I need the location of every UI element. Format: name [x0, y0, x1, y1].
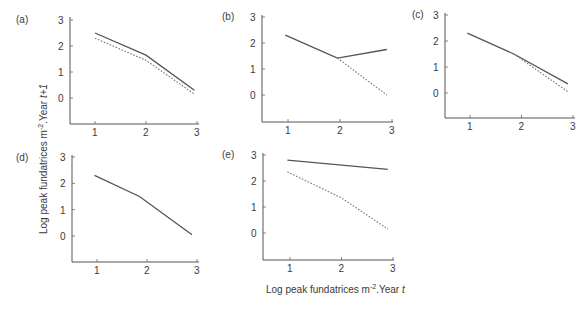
y-tick-label: 0: [60, 231, 66, 242]
y-axis-title-suffix: .Year: [38, 98, 49, 124]
panel-c: 0123123(c): [412, 9, 576, 132]
x-tick-label: 2: [144, 265, 150, 276]
x-tick-label: 1: [467, 121, 473, 132]
panel-label: (e): [222, 149, 234, 160]
y-tick-label: 1: [58, 67, 64, 78]
dotted-series-line: [337, 58, 386, 95]
y-tick-label: 2: [250, 38, 256, 49]
panels: 0123123(a)0123123(b)0123123(c)0123123(d)…: [16, 9, 576, 276]
x-tick-label: 1: [287, 263, 293, 274]
y-tick-label: 1: [251, 202, 257, 213]
x-tick-label: 1: [92, 127, 98, 138]
y-tick-label: 3: [58, 15, 64, 26]
y-tick-label: 3: [251, 150, 257, 161]
solid-series-line: [95, 175, 193, 234]
y-tick-label: 2: [251, 176, 257, 187]
x-tick-label: 3: [194, 127, 200, 138]
dotted-series-line: [287, 172, 388, 229]
dotted-series-line: [95, 38, 194, 94]
x-tick-label: 2: [143, 127, 149, 138]
y-tick-label: 1: [433, 62, 439, 73]
y-axis-title-italic: t+1: [38, 84, 49, 98]
y-axis-title-main: Log peak fundatrices m: [38, 130, 49, 234]
y-tick-label: 0: [251, 228, 257, 239]
solid-series-line: [95, 33, 194, 90]
panel-label: (d): [16, 152, 28, 163]
solid-series-line: [287, 160, 388, 169]
x-tick-label: 3: [389, 125, 395, 136]
axes-frame: [70, 17, 199, 124]
y-tick-label: 0: [58, 93, 64, 104]
x-tick-label: 3: [390, 263, 396, 274]
x-axis-title-suffix: .Year: [376, 284, 402, 295]
y-tick-label: 3: [60, 152, 66, 163]
x-tick-label: 2: [519, 121, 525, 132]
x-tick-label: 2: [337, 125, 343, 136]
y-tick-label: 3: [250, 12, 256, 23]
x-tick-label: 2: [339, 263, 345, 274]
y-axis-title: Log peak fundatrices m-2.Year t+1: [37, 84, 49, 234]
y-tick-label: 2: [58, 41, 64, 52]
panel-label: (c): [412, 9, 424, 20]
solid-series-line: [285, 35, 386, 58]
solid-series-line: [467, 33, 568, 84]
x-axis-title-main: Log peak fundatrices m: [266, 284, 370, 295]
y-tick-label: 1: [60, 205, 66, 216]
axes-frame: [262, 15, 393, 122]
panel-e: 0123123(e): [222, 149, 396, 274]
panel-label: (b): [222, 11, 234, 22]
chart-canvas: 0123123(a)0123123(b)0123123(c)0123123(d)…: [0, 0, 585, 309]
y-tick-label: 2: [433, 36, 439, 47]
figure: 0123123(a)0123123(b)0123123(c)0123123(d)…: [0, 0, 585, 309]
axes-frame: [263, 153, 394, 260]
dotted-series-line: [514, 54, 568, 92]
x-tick-label: 3: [570, 121, 576, 132]
axes-frame: [72, 155, 199, 262]
x-tick-label: 1: [285, 125, 291, 136]
x-tick-label: 3: [194, 265, 200, 276]
y-tick-label: 0: [250, 90, 256, 101]
panel-label: (a): [16, 14, 28, 25]
x-axis-title-italic: t: [402, 284, 406, 295]
y-tick-label: 2: [60, 178, 66, 189]
y-tick-label: 1: [250, 64, 256, 75]
y-tick-label: 0: [433, 88, 439, 99]
y-tick-label: 3: [433, 10, 439, 21]
axes-frame: [445, 13, 575, 118]
panel-b: 0123123(b): [222, 11, 395, 136]
x-axis-title: Log peak fundatrices m-2.Year t: [266, 283, 406, 295]
x-tick-label: 1: [94, 265, 100, 276]
